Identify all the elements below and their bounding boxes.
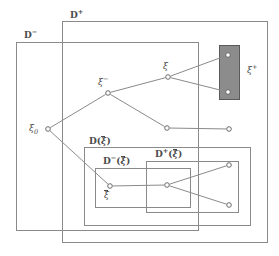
edge-xi0-to-xi-minus <box>50 94 105 127</box>
box-label-d-xibar: D(ξ) <box>89 137 111 146</box>
node-label-xi0: ξ0 <box>29 124 38 133</box>
node-mid-b <box>227 127 232 132</box>
box-label-d-minus: D− <box>24 31 37 40</box>
node-xibar <box>108 184 113 189</box>
node-xi-minus <box>106 91 111 96</box>
node-xi-plus-b <box>226 90 231 95</box>
edge-mid-a-to-mid-b <box>170 128 226 129</box>
region-box-d-plus-xibar <box>147 162 239 213</box>
edge-xi-minus-to-xi <box>111 78 166 93</box>
node-label-xibar: ξ <box>104 191 109 200</box>
node-inner-bot <box>227 203 232 208</box>
nodes-layer <box>46 53 232 208</box>
edge-xi-minus-to-mid-a <box>110 94 164 126</box>
node-label-xi-minus: ξ− <box>98 78 108 87</box>
set-inclusion-diagram: D+ D− D(ξ) D−(ξ) D+(ξ) ξ0 ξ− ξ ξ ξ+ <box>0 0 279 256</box>
node-inner-mid <box>165 183 170 188</box>
node-label-xi: ξ <box>163 62 168 71</box>
edges-layer <box>50 56 226 204</box>
node-xi0 <box>46 127 51 132</box>
node-xi-plus-a <box>226 53 231 58</box>
box-label-d-plus-xibar: D+(ξ) <box>155 150 182 159</box>
node-xi <box>166 75 171 80</box>
label-xi-plus: ξ+ <box>247 66 257 75</box>
node-inner-top <box>227 163 232 168</box>
node-mid-a <box>165 126 170 131</box>
box-label-d-minus-xibar: D−(ξ) <box>103 157 130 166</box>
diagram-canvas <box>0 0 279 256</box>
box-label-d-plus: D+ <box>70 11 83 20</box>
edge-xibar-to-inner-mid <box>113 185 164 186</box>
